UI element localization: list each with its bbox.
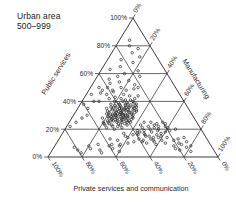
data-point [110, 103, 113, 106]
data-point [126, 124, 129, 127]
data-point [166, 136, 169, 139]
data-point [116, 75, 119, 78]
data-point [161, 139, 164, 142]
data-point [128, 95, 131, 98]
data-point [139, 56, 142, 59]
left-tick-label: 80% [97, 42, 110, 49]
data-point [99, 92, 102, 95]
ternary-figure: Urban area 500–999 0%0%0%20%20%20%40%40%… [0, 0, 236, 209]
data-point [155, 143, 158, 146]
axis-labels: 0%0%0%20%20%20%40%40%40%60%60%60%80%80%8… [32, 2, 231, 193]
data-point [80, 152, 83, 155]
right-tick-label: 100% [217, 135, 232, 153]
data-point [185, 140, 188, 143]
data-point [120, 58, 123, 61]
data-point [139, 124, 142, 127]
data-point [177, 138, 180, 141]
bottom-tick-label: 60% [119, 160, 132, 175]
data-point [157, 125, 160, 128]
bottom-tick-label: 40% [153, 160, 166, 175]
data-point [127, 142, 129, 145]
data-point [129, 99, 132, 102]
data-point [105, 113, 108, 116]
data-point [124, 99, 127, 102]
data-point [81, 117, 84, 120]
data-point [157, 136, 160, 139]
data-point [132, 134, 135, 137]
data-point [116, 139, 119, 142]
data-point [156, 122, 159, 125]
data-point [108, 78, 111, 81]
data-point [121, 127, 124, 130]
data-point [132, 61, 135, 64]
data-point [145, 142, 148, 145]
data-point [119, 65, 122, 68]
data-point [105, 93, 108, 96]
data-point [124, 135, 127, 138]
data-point [150, 138, 153, 141]
grid-line [65, 129, 82, 157]
data-point [139, 75, 142, 78]
data-point [160, 132, 163, 135]
left-axis-title: Public services [39, 51, 72, 97]
data-point [185, 146, 188, 149]
data-point [97, 143, 100, 146]
bottom-tick-label: 0% [221, 160, 232, 172]
right-tick-label: 20% [149, 27, 162, 42]
data-point [131, 52, 134, 55]
data-point [125, 89, 128, 92]
data-point [133, 88, 136, 91]
data-point [86, 114, 89, 117]
data-point [69, 125, 72, 128]
data-point [109, 82, 112, 85]
data-point [137, 47, 140, 50]
bottom-tick [82, 157, 84, 161]
data-point [156, 134, 159, 137]
right-tick [150, 42, 152, 46]
left-tick-label: 20% [46, 126, 59, 133]
left-tick-label: 0% [32, 153, 42, 160]
bottom-tick-label: 100% [51, 160, 66, 178]
data-point [120, 97, 123, 100]
data-point [160, 135, 163, 138]
data-point [110, 106, 113, 109]
data-point [109, 68, 112, 71]
data-point [190, 150, 193, 153]
grid-lines [65, 46, 201, 157]
right-tick [167, 70, 169, 74]
data-point [118, 81, 121, 84]
data-point [173, 145, 176, 148]
bottom-tick-label: 20% [187, 160, 200, 175]
data-point [150, 131, 153, 134]
data-point [101, 89, 104, 92]
bottom-tick [218, 157, 220, 161]
left-tick-label: 100% [110, 14, 127, 21]
data-point [143, 121, 146, 124]
data-point [108, 97, 111, 100]
data-point [98, 86, 101, 89]
data-point [89, 147, 92, 150]
left-tick-label: 60% [80, 70, 93, 77]
data-point [141, 127, 144, 130]
data-point [153, 127, 156, 130]
bottom-tick [150, 157, 152, 161]
right-tick-label: 80% [200, 110, 213, 125]
right-tick [218, 153, 220, 157]
data-point [130, 104, 133, 107]
data-point [101, 117, 104, 120]
data-point [164, 122, 167, 125]
data-point [148, 135, 151, 138]
data-point [183, 136, 186, 139]
data-point [111, 143, 114, 146]
data-point [109, 138, 112, 141]
data-point [90, 93, 93, 96]
data-point [168, 129, 171, 132]
data-point [133, 97, 136, 100]
data-point [99, 149, 102, 152]
data-point [139, 131, 142, 134]
bottom-tick [48, 157, 50, 161]
data-point [143, 129, 146, 132]
right-tick [133, 14, 135, 18]
data-point [119, 124, 122, 127]
bottom-tick [184, 157, 186, 161]
